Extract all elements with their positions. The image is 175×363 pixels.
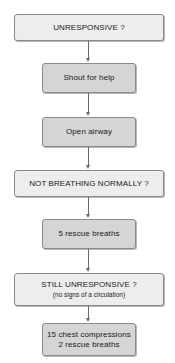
node-label: UNRESPONSIVE ? <box>53 23 125 33</box>
node-label: STILL UNRESPONSIVE ? <box>41 280 137 290</box>
arrow-down-icon <box>86 214 90 218</box>
node-label: 5 rescue breaths <box>58 229 119 239</box>
connector-line <box>88 249 89 269</box>
arrow-down-icon <box>86 58 90 62</box>
node-label: NOT BREATHING NORMALLY ? <box>29 179 149 189</box>
connector-line <box>88 93 89 113</box>
arrow-down-icon <box>86 165 90 169</box>
node-shout-for-help: Shout for help <box>42 63 136 93</box>
node-still-unresponsive: STILL UNRESPONSIVE ? (no signs of a circ… <box>14 273 164 306</box>
node-sublabel: (no signs of a circulation) <box>53 290 125 299</box>
node-open-airway: Open airway <box>42 117 136 147</box>
connector-line <box>88 197 89 215</box>
bls-flowchart: UNRESPONSIVE ? Shout for help Open airwa… <box>0 0 175 363</box>
node-unresponsive: UNRESPONSIVE ? <box>14 14 164 41</box>
arrow-down-icon <box>86 112 90 116</box>
node-not-breathing-normally: NOT BREATHING NORMALLY ? <box>14 170 164 197</box>
arrow-down-icon <box>86 268 90 272</box>
node-label: 15 chest compressions <box>47 330 131 340</box>
node-rescue-breaths: 5 rescue breaths <box>42 219 136 249</box>
arrow-down-icon <box>86 318 90 322</box>
node-label: Open airway <box>66 127 112 137</box>
node-label: Shout for help <box>63 73 114 83</box>
connector-line <box>88 147 89 166</box>
connector-line <box>88 41 89 59</box>
node-chest-compressions: 15 chest compressions 2 rescue breaths <box>42 323 136 356</box>
node-sublabel: 2 rescue breaths <box>58 340 119 350</box>
